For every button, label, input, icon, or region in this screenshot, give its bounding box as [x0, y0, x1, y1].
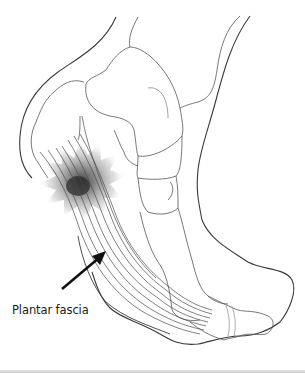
foot-anatomy-drawing	[0, 0, 305, 373]
sole-outline	[78, 236, 170, 334]
arrow-pointer	[62, 251, 106, 289]
plantar-fascia-bands	[40, 116, 212, 334]
talus-bone	[86, 47, 183, 156]
tibia-outline	[180, 16, 240, 108]
plantar-fascia-label: Plantar fascia	[12, 303, 89, 317]
plantar-fascia-illustration: Plantar fascia	[0, 0, 305, 373]
shin-outline	[92, 16, 294, 344]
toe-bone	[208, 296, 273, 340]
inflammation-burst	[38, 140, 126, 222]
